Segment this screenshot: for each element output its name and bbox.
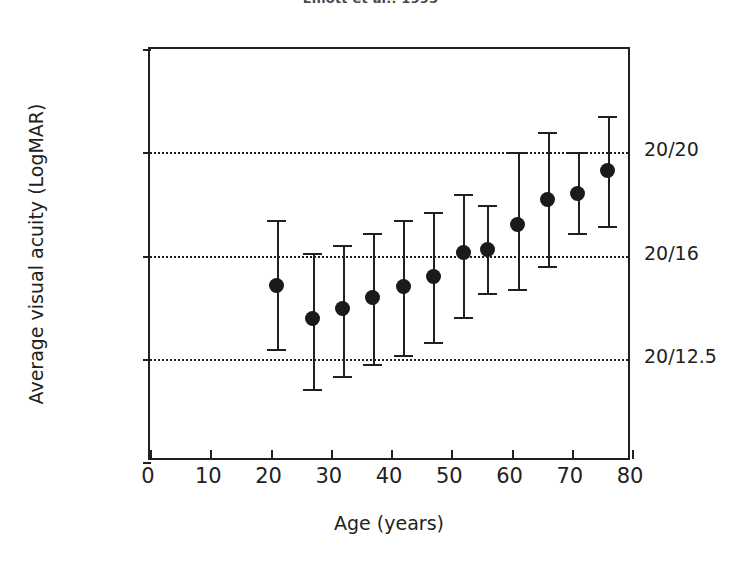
x-axis-tick — [451, 450, 453, 459]
x-axis-tick — [632, 450, 634, 459]
x-axis-tick-label: 0 — [125, 466, 171, 487]
x-axis-tick-label: 70 — [547, 466, 593, 487]
y-axis-tick — [143, 256, 151, 258]
x-axis-tick-label: 40 — [366, 466, 412, 487]
data-point-marker — [600, 163, 615, 178]
data-point-marker — [480, 242, 495, 257]
x-axis-tick — [271, 450, 273, 459]
x-axis-tick — [572, 450, 574, 459]
y-axis-tick — [143, 359, 151, 361]
error-bar-cap — [363, 364, 382, 366]
x-axis-tick — [331, 450, 333, 459]
error-bar-cap — [394, 355, 413, 357]
x-axis-tick — [150, 450, 152, 459]
error-bar-cap — [424, 212, 443, 214]
gridline-y — [150, 152, 628, 154]
x-axis-tick-label: 10 — [185, 466, 231, 487]
x-axis-tick-label: 80 — [607, 466, 653, 487]
data-point-marker — [510, 217, 525, 232]
x-axis-tick — [210, 450, 212, 459]
x-axis-tick-label: 60 — [487, 466, 533, 487]
y-axis-tick — [143, 49, 151, 51]
error-bar-cap — [478, 205, 497, 207]
error-bar-cap — [424, 342, 443, 344]
error-bar-cap — [508, 289, 527, 291]
error-bar-cap — [454, 317, 473, 319]
gridline-y — [150, 256, 628, 258]
snellen-tick-label: 20/20 — [644, 140, 741, 159]
snellen-tick-label: 20/16 — [644, 244, 741, 263]
error-bar-cap — [394, 220, 413, 222]
x-axis-title: Age (years) — [148, 512, 630, 534]
data-point-marker — [396, 279, 411, 294]
error-bar-cap — [568, 152, 587, 154]
error-bar-cap — [538, 132, 557, 134]
data-point-marker — [456, 245, 471, 260]
error-bar-cap — [454, 194, 473, 196]
error-bar-cap — [267, 349, 286, 351]
chart-title: Elliott et al., 1995 — [0, 0, 741, 3]
error-bar-cap — [568, 233, 587, 235]
error-bar-cap — [333, 245, 352, 247]
data-point-marker — [540, 192, 555, 207]
error-bar-cap — [598, 116, 617, 118]
data-point-marker — [426, 269, 441, 284]
data-point-marker — [570, 186, 585, 201]
y-axis-title: Average visual acuity (LogMAR) — [25, 64, 47, 444]
error-bar-cap — [363, 233, 382, 235]
chart-figure: Elliott et al., 1995 Average visual acui… — [0, 0, 741, 564]
data-point-marker — [305, 311, 320, 326]
data-point-marker — [365, 290, 380, 305]
x-axis-tick — [391, 450, 393, 459]
x-axis-tick-label: 20 — [246, 466, 292, 487]
error-bar-cap — [478, 293, 497, 295]
error-bar-cap — [303, 389, 322, 391]
gridline-y — [150, 359, 628, 361]
error-bar-cap — [508, 152, 527, 154]
error-bar-cap — [267, 220, 286, 222]
error-bar-cap — [303, 253, 322, 255]
error-bar-cap — [598, 226, 617, 228]
snellen-tick-label: 20/12.5 — [644, 347, 741, 366]
error-bar-cap — [333, 376, 352, 378]
x-axis-tick-label: 50 — [426, 466, 472, 487]
x-axis-tick-label: 30 — [306, 466, 352, 487]
error-bar-cap — [538, 266, 557, 268]
data-point-marker — [335, 301, 350, 316]
y-axis-tick — [143, 152, 151, 154]
x-axis-tick — [512, 450, 514, 459]
plot-area: 0.10.0-0.1-0.2-0.3 — [148, 47, 630, 460]
data-point-marker — [269, 278, 284, 293]
